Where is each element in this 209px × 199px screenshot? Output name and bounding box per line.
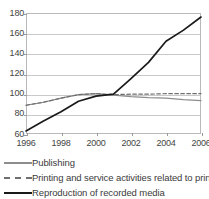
- legend-label-publishing: Publishing: [32, 157, 75, 168]
- y-tick-label: 120: [0, 69, 24, 78]
- series-layer: [26, 13, 201, 134]
- x-tick-label: 2004: [151, 139, 181, 148]
- x-tick-label: 2002: [116, 139, 146, 148]
- x-tick-label: 2006: [186, 139, 209, 148]
- legend-item-printing: Printing and service activities related …: [2, 170, 209, 185]
- legend-line-reproduction-icon: [2, 188, 32, 198]
- y-tick-label: 160: [0, 29, 24, 38]
- legend-item-publishing: Publishing: [2, 155, 209, 170]
- x-axis-labels: 199619982000200220042006: [26, 139, 201, 151]
- legend-label-printing: Printing and service activities related …: [32, 172, 209, 183]
- x-tick-label: 2000: [81, 139, 111, 148]
- legend-line-printing-icon: [2, 173, 32, 183]
- x-tick-label: 1996: [11, 139, 41, 148]
- x-tick-mark: [202, 133, 203, 136]
- legend-line-publishing-icon: [2, 158, 32, 168]
- y-tick-label: 80: [0, 109, 24, 118]
- chart-title: [26, 0, 201, 5]
- legend-label-reproduction: Reproduction of recorded media: [32, 187, 165, 198]
- legend-item-reproduction: Reproduction of recorded media: [2, 185, 209, 199]
- series-line: [26, 17, 201, 131]
- series-line: [26, 94, 201, 106]
- y-tick-label: 180: [0, 9, 24, 18]
- line-chart: 1801601401201008060 19961998200020022004…: [0, 0, 209, 199]
- y-axis-labels: 1801601401201008060: [0, 13, 24, 134]
- x-tick-label: 1998: [46, 139, 76, 148]
- chart-legend: Publishing Printing and service activiti…: [2, 155, 209, 199]
- y-tick-label: 140: [0, 49, 24, 58]
- y-tick-label: 100: [0, 89, 24, 98]
